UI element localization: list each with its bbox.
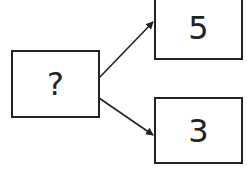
arrow-to-top — [99, 22, 153, 78]
node-top: 5 — [154, 0, 243, 60]
node-top-label: 5 — [188, 12, 208, 44]
node-bottom: 3 — [154, 97, 243, 164]
arrow-to-bottom — [99, 98, 153, 135]
node-source-label: ? — [47, 68, 64, 100]
node-source: ? — [11, 50, 100, 118]
node-bottom-label: 3 — [188, 115, 208, 147]
